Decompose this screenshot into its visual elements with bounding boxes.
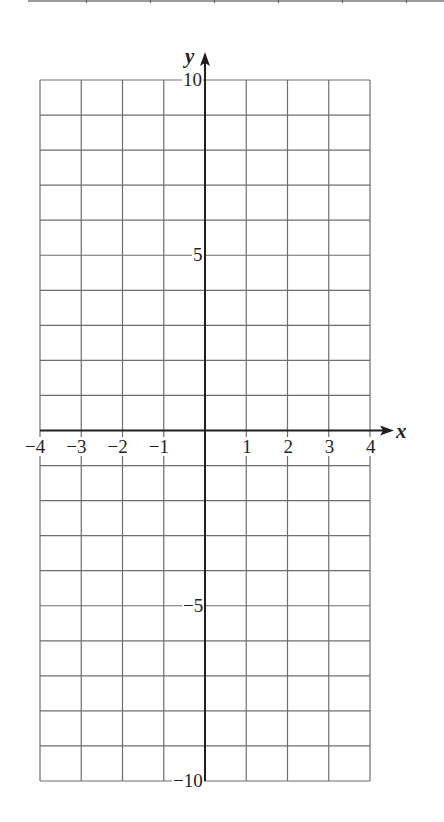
x-tick-label: 3 xyxy=(324,437,336,456)
x-tick-label: 4 xyxy=(365,437,377,456)
y-tick-label: 10 xyxy=(182,70,203,89)
coordinate-grid xyxy=(0,0,444,822)
y-axis-name: y xyxy=(185,44,194,69)
x-tick-label: −1 xyxy=(148,437,170,456)
x-tick-label: 2 xyxy=(283,437,295,456)
x-tick-label: −2 xyxy=(107,437,129,456)
y-tick-label: −10 xyxy=(172,771,204,790)
x-tick-label: 1 xyxy=(241,437,253,456)
y-tick-label: 5 xyxy=(192,245,204,264)
x-tick-label: −4 xyxy=(24,437,46,456)
x-tick-label: −3 xyxy=(65,437,87,456)
x-axis-name: x xyxy=(396,419,407,444)
y-tick-label: −5 xyxy=(182,596,204,615)
